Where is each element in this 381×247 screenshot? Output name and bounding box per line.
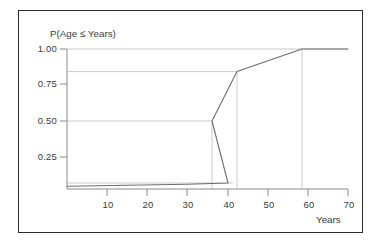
x-tick-label-20: 20 <box>140 199 156 210</box>
y-tick-label-0-50: 0.50 <box>27 115 57 126</box>
y-tick-label-0-75: 0.75 <box>27 78 57 89</box>
y-axis-ticks <box>60 49 67 157</box>
x-tick-label-60: 60 <box>301 199 317 210</box>
y-tick-label-0-25: 0.25 <box>27 151 57 162</box>
x-tick-label-70: 70 <box>341 199 357 210</box>
gridlines-horizontal <box>67 49 348 183</box>
cdf-curve <box>67 49 348 186</box>
x-axis-title: Years <box>316 214 341 225</box>
x-axis-ticks <box>107 189 348 196</box>
x-tick-label-40: 40 <box>221 199 237 210</box>
chart-frame: 1.00 0.75 0.50 0.25 10 20 30 40 50 60 70… <box>18 10 363 233</box>
gridlines-vertical <box>212 49 302 189</box>
x-tick-label-30: 30 <box>180 199 196 210</box>
figure-canvas: 1.00 0.75 0.50 0.25 10 20 30 40 50 60 70… <box>0 0 381 247</box>
y-axis-title: P(Age ≤ Years) <box>50 28 116 39</box>
x-tick-label-10: 10 <box>100 199 116 210</box>
x-tick-label-50: 50 <box>261 199 277 210</box>
y-tick-label-1-00: 1.00 <box>27 43 57 54</box>
